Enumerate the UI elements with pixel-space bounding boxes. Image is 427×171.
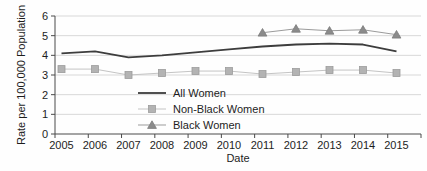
data-point-marker-non-black-women	[226, 68, 233, 75]
x-tick-label: 2005	[49, 139, 73, 151]
legend-item-all-women: All Women	[137, 85, 265, 101]
data-point-marker-non-black-women	[58, 66, 65, 73]
x-tick-label: 2015	[384, 139, 408, 151]
legend: All Women Non-Black Women Black Women	[137, 85, 265, 133]
y-tick-label: 3	[42, 69, 48, 81]
data-point-marker-non-black-women	[159, 70, 166, 77]
data-point-marker-non-black-women	[360, 67, 367, 74]
x-tick-label: 2006	[83, 139, 107, 151]
data-point-marker-non-black-women	[125, 72, 132, 79]
x-tick-label: 2008	[150, 139, 174, 151]
x-tick-label: 2014	[351, 139, 375, 151]
x-tick-label: 2007	[116, 139, 140, 151]
data-point-marker-black-women	[292, 25, 301, 33]
y-tick-label: 0	[42, 128, 48, 140]
x-tick-label: 2012	[284, 139, 308, 151]
legend-triangle-marker-icon	[137, 119, 167, 131]
legend-item-non-black-women: Non-Black Women	[137, 101, 265, 117]
legend-line-sample-icon	[137, 87, 167, 99]
legend-square-marker-icon	[137, 103, 167, 115]
data-point-marker-non-black-women	[293, 69, 300, 76]
y-tick-label: 2	[42, 89, 48, 101]
y-tick-label: 6	[42, 10, 48, 22]
data-point-marker-non-black-women	[393, 70, 400, 77]
x-tick-label: 2009	[183, 139, 207, 151]
data-point-marker-non-black-women	[192, 68, 199, 75]
x-tick-label: 2013	[317, 139, 341, 151]
x-tick-label: 2011	[251, 139, 275, 151]
legend-label: Non-Black Women	[173, 103, 265, 115]
legend-label: All Women	[173, 87, 226, 99]
y-tick-label: 1	[42, 108, 48, 120]
x-tick-label: 2010	[217, 139, 241, 151]
y-axis-title: Rate per 100,000 Population	[15, 5, 27, 145]
line-chart: 0123456200520062007200820092010201120122…	[0, 0, 427, 171]
data-point-marker-non-black-women	[259, 71, 266, 78]
legend-label: Black Women	[173, 119, 241, 131]
data-point-marker-non-black-women	[92, 66, 99, 73]
y-tick-label: 4	[42, 49, 48, 61]
legend-item-black-women: Black Women	[137, 117, 265, 133]
data-point-marker-non-black-women	[326, 67, 333, 74]
x-axis-title: Date	[226, 152, 249, 164]
y-tick-label: 5	[42, 30, 48, 42]
